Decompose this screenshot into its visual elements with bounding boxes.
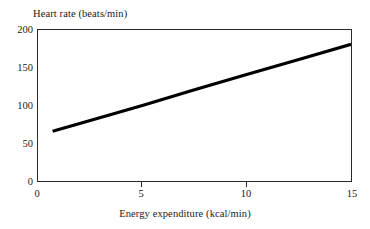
series-line-heart-rate (53, 44, 351, 131)
y-tick-label-200: 200 (3, 24, 33, 35)
x-tick-label-10: 10 (234, 188, 258, 199)
y-axis-title: Heart rate (beats/min) (33, 7, 127, 20)
x-tick-label-0: 0 (25, 188, 49, 199)
y-tick-label-0: 0 (3, 176, 33, 187)
x-axis-title: Energy expenditure (kcal/min) (0, 207, 370, 220)
y-tick-label-150: 150 (3, 62, 33, 73)
x-tick-mark-5 (141, 182, 142, 187)
y-tick-label-50: 50 (3, 138, 33, 149)
y-tick-label-100: 100 (3, 100, 33, 111)
chart-figure: Heart rate (beats/min) 200 150 100 50 0 … (0, 0, 370, 229)
x-tick-label-15: 15 (340, 188, 364, 199)
x-tick-mark-10 (246, 182, 247, 187)
x-tick-label-5: 5 (129, 188, 153, 199)
plot-area (37, 29, 352, 182)
data-line-svg (38, 30, 351, 181)
